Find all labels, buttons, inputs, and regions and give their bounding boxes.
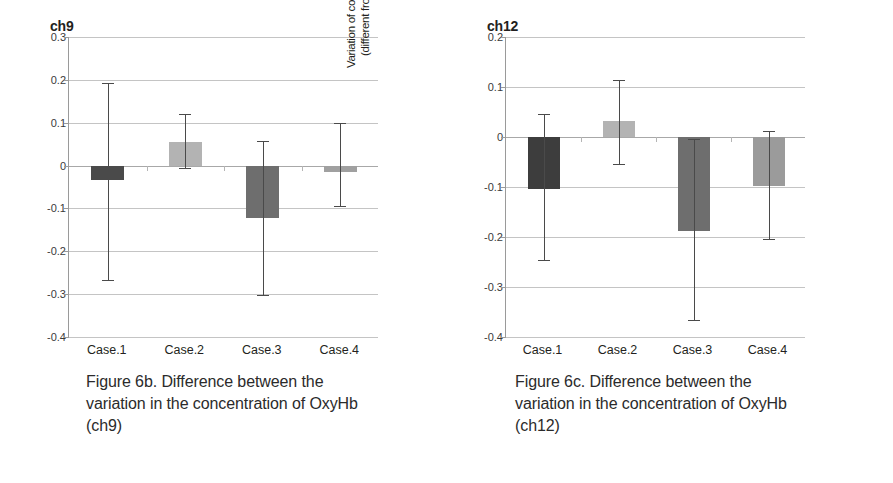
plot-area-ch9: [68, 37, 378, 337]
y-tick-mark: [501, 37, 506, 38]
x-minor-tick: [731, 137, 732, 142]
gridline: [506, 287, 805, 288]
gridline: [69, 123, 378, 124]
error-bar-cap-upper: [613, 80, 625, 81]
gridline: [506, 87, 805, 88]
error-bar-case-3: [694, 139, 695, 320]
error-bar-cap-upper: [257, 141, 269, 142]
x-tick-label-case-3: Case.3: [242, 343, 282, 357]
error-bar-cap-lower: [763, 239, 775, 240]
y-tick-mark: [501, 187, 506, 188]
plot-area-ch12: [505, 37, 805, 337]
figure-caption-ch12: Figure 6c. Difference between the variat…: [515, 371, 893, 437]
error-bar-cap-lower: [257, 295, 269, 296]
x-minor-tick: [224, 166, 225, 171]
y-tick-mark: [64, 80, 69, 81]
x-tick-label-case-2: Case.2: [164, 343, 204, 357]
error-bar-case-1: [544, 114, 545, 260]
figure-container: ch9 Variation of concentration of OxyHb …: [0, 0, 893, 483]
caption-line: Figure 6c. Difference between the: [515, 371, 893, 393]
x-minor-tick: [581, 137, 582, 142]
chart-title-ch9: ch9: [50, 18, 455, 35]
error-bar-cap-lower: [538, 260, 550, 261]
gridline: [69, 208, 378, 209]
error-bar-case-1: [108, 83, 109, 281]
error-bar-case-2: [619, 80, 620, 165]
error-bar-cap-upper: [763, 131, 775, 132]
x-tick-label-case-1: Case.1: [87, 343, 127, 357]
error-bar-cap-upper: [102, 83, 114, 84]
gridline: [69, 251, 378, 252]
x-axis-labels-ch12: Case.1Case.2Case.3Case.4: [465, 337, 893, 363]
y-axis-title-line-1: Variation of concentration of OxyHb: [345, 0, 359, 133]
plot-wrap-ch9: Variation of concentration of OxyHb (dif…: [28, 37, 455, 337]
x-minor-tick: [656, 137, 657, 142]
error-bar-case-4: [340, 123, 341, 207]
x-tick-label-case-1: Case.1: [523, 343, 563, 357]
gridline: [506, 37, 805, 38]
error-bar-cap-upper: [688, 139, 700, 140]
y-tick-mark: [501, 287, 506, 288]
x-axis-labels-ch9: Case.1Case.2Case.3Case.4: [28, 337, 455, 363]
x-tick-label-case-4: Case.4: [748, 343, 788, 357]
x-minor-tick: [147, 166, 148, 171]
y-axis-title-line-2: (different from rest)(mM・mm): [359, 0, 373, 133]
error-bar-cap-lower: [334, 206, 346, 207]
caption-line: (ch9): [86, 415, 456, 437]
caption-line: Figure 6b. Difference between the: [86, 371, 456, 393]
caption-line: variation in the concentration of OxyHb: [86, 393, 456, 415]
figure-panel-ch12: ch12 Variation of concentration of OxyHb…: [455, 0, 893, 483]
x-tick-label-case-3: Case.3: [673, 343, 713, 357]
y-tick-mark: [64, 123, 69, 124]
error-bar-case-2: [185, 114, 186, 168]
caption-line: variation in the concentration of OxyHb: [515, 393, 893, 415]
y-tick-mark: [501, 137, 506, 138]
x-tick-label-case-2: Case.2: [598, 343, 638, 357]
y-tick-mark: [64, 37, 69, 38]
x-tick-label-case-4: Case.4: [319, 343, 359, 357]
error-bar-case-3: [263, 141, 264, 295]
error-bar-cap-lower: [613, 164, 625, 165]
error-bar-case-4: [769, 131, 770, 239]
chart-title-ch12: ch12: [487, 18, 893, 35]
gridline: [69, 80, 378, 81]
error-bar-cap-lower: [688, 320, 700, 321]
y-tick-mark: [64, 166, 69, 167]
y-tick-labels-ch12: 0.20.10-0.1-0.2-0.3-0.4: [469, 37, 503, 337]
gridline: [69, 37, 378, 38]
y-tick-mark: [64, 251, 69, 252]
caption-line: (ch12): [515, 415, 893, 437]
y-tick-mark: [501, 87, 506, 88]
x-minor-tick: [302, 166, 303, 171]
y-tick-mark: [501, 237, 506, 238]
figure-caption-ch9: Figure 6b. Difference between the variat…: [86, 371, 456, 437]
figure-panel-ch9: ch9 Variation of concentration of OxyHb …: [0, 0, 455, 483]
y-tick-labels-ch9: 0.30.20.10-0.1-0.2-0.3-0.4: [32, 37, 66, 337]
error-bar-cap-upper: [538, 114, 550, 115]
plot-wrap-ch12: Variation of concentration of OxyHb (dif…: [465, 37, 893, 337]
y-tick-mark: [64, 294, 69, 295]
error-bar-cap-upper: [179, 114, 191, 115]
error-bar-cap-lower: [102, 280, 114, 281]
error-bar-cap-lower: [179, 168, 191, 169]
y-tick-mark: [64, 208, 69, 209]
gridline: [506, 237, 805, 238]
gridline: [69, 294, 378, 295]
